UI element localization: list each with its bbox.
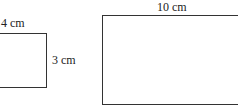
large-rectangle-width-label: 10 cm [157,1,187,13]
small-rectangle-height-label: 3 cm [52,54,76,66]
large-rectangle [102,15,238,105]
diagram: 4 cm 3 cm 10 cm [0,0,238,110]
small-rectangle [0,33,47,88]
small-rectangle-width-label: 4 cm [1,17,25,29]
